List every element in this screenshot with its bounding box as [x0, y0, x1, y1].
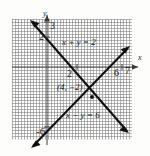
x-tick-label-2: 2: [67, 69, 72, 79]
y-tick-label-2: 2: [39, 32, 44, 42]
x-tick-label-6: 6: [114, 68, 119, 78]
equation-label-one: x + y = 2: [62, 38, 96, 47]
axis-lines: [12, 15, 138, 145]
x-axis-arrowhead: [132, 64, 138, 69]
line1-arrowhead-upper: [30, 20, 40, 28]
y-tick-label-3: 3: [50, 21, 55, 31]
equation-label-two: x − y = 6: [66, 111, 100, 120]
intersection-point-label: (4, −2): [57, 83, 83, 92]
x-axis-label: x: [138, 54, 142, 62]
x-tick-label-7: 7: [125, 66, 130, 76]
graph-drawing-layer: [0, 0, 150, 156]
line2-arrowhead-lower: [31, 140, 41, 148]
graph-figure: y x 3 2 2 6 7 -6 x + y = 2 x − y = 6 (4,…: [0, 0, 150, 156]
y-tick-label-negative-6: -6: [36, 126, 45, 137]
intersection-point-marker: [90, 95, 94, 99]
y-axis-label: y: [43, 10, 47, 18]
